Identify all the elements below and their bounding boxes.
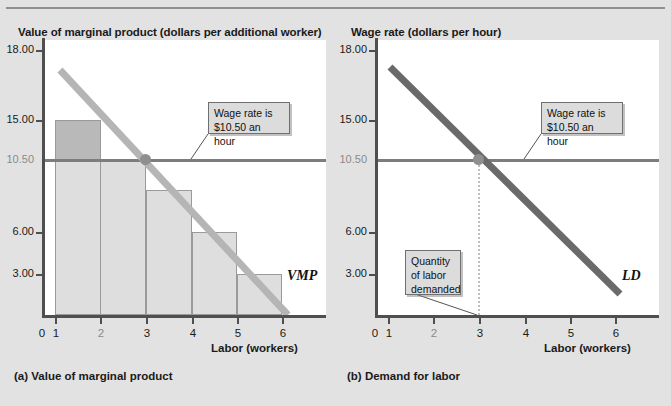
panel-demand-for-labor: Wage rate (dollars per hour) Wage rate i… (337, 12, 667, 394)
top-divider (6, 7, 665, 9)
panel-b-xtick-label-2: 2 (424, 327, 444, 339)
panel-a-xtick-3 (146, 317, 148, 324)
panel-b-ytick-3 (369, 274, 376, 276)
panel-b-xtick-1 (388, 317, 390, 324)
panel-b-wage-rate-line (377, 159, 659, 162)
panel-a-curve-label: VMP (287, 268, 317, 284)
panel-b-y-axis-title: Wage rate (dollars per hour) (351, 26, 501, 38)
panel-a-ytick-18 (36, 50, 43, 52)
panel-a-ytick-label-6: 6.00 (0, 225, 34, 237)
panel-a-xtick-label-3: 3 (137, 327, 157, 339)
panel-a-y-axis-title: Value of marginal product (dollars per a… (18, 26, 322, 38)
panel-a-ytick-label-10-50: 10.50 (0, 153, 34, 165)
panel-a-xtick-label-1: 1 (46, 327, 66, 339)
panel-b-intersection-dot (473, 154, 484, 165)
panel-a-wage-callout-line2: $10.50 an hour (214, 120, 284, 148)
panel-a-ytick-3 (36, 274, 43, 276)
panel-b-ytick-label-3: 3.00 (329, 267, 367, 279)
panel-a-x-axis-title: Labor (workers) (211, 342, 298, 354)
panel-a-xtick-4 (192, 317, 194, 324)
panel-b-ytick-label-6: 6.00 (329, 225, 367, 237)
panel-b-xtick-6 (615, 317, 617, 324)
panel-a-xtick-1 (55, 317, 57, 324)
panel-a-xtick-label-5: 5 (228, 327, 248, 339)
panel-b-quantity-callout: Quantity of labor demanded (405, 250, 461, 295)
panel-b-xtick-label-1: 1 (379, 327, 399, 339)
panel-a-caption: (a) Value of marginal product (14, 370, 172, 382)
panel-a-xtick-2 (100, 317, 102, 324)
panel-b-wage-callout: Wage rate is $10.50 an hour (541, 102, 623, 134)
panel-b-quantity-callout-line1: Quantity (411, 254, 455, 268)
panel-b-quantity-drop-line (478, 162, 480, 315)
panel-a-wage-callout-line1: Wage rate is (214, 106, 284, 120)
panel-b-xtick-label-4: 4 (516, 327, 536, 339)
panel-b-xtick-label-5: 5 (561, 327, 581, 339)
panel-a-ytick-15 (36, 120, 43, 122)
bar-worker-4 (192, 232, 237, 315)
panel-b-ytick-label-15: 15.00 (329, 113, 367, 125)
panel-a-xtick-6 (282, 317, 284, 324)
panel-b-wage-callout-line2: $10.50 an hour (547, 120, 617, 148)
panel-b-xtick-3 (479, 317, 481, 324)
figure-container: Value of marginal product (dollars per a… (0, 0, 671, 406)
panel-a-xtick-label-4: 4 (183, 327, 203, 339)
panel-b-xtick-label-3: 3 (470, 327, 490, 339)
panel-b-ytick-label-10-50: 10.50 (329, 153, 367, 165)
panel-value-of-marginal-product: Value of marginal product (dollars per a… (4, 12, 334, 394)
panel-a-wage-callout: Wage rate is $10.50 an hour (208, 102, 290, 134)
panel-b-xtick-2 (433, 317, 435, 324)
panel-b-ytick-label-18: 18.00 (329, 43, 367, 55)
panel-b-quantity-callout-line3: demanded (411, 282, 455, 296)
panel-a-xtick-label-2: 2 (91, 327, 111, 339)
panel-a-xtick-label-6: 6 (273, 327, 293, 339)
bar-worker-3 (146, 190, 192, 315)
bar-surplus-worker-1 (55, 120, 101, 161)
panel-a-ytick-6 (36, 232, 43, 234)
panel-b-xtick-label-6: 6 (606, 327, 626, 339)
panel-b-xtick-5 (570, 317, 572, 324)
panel-a-ytick-label-3: 3.00 (0, 267, 34, 279)
panel-a-intersection-dot (140, 154, 151, 165)
panel-b-x-axis-title: Labor (workers) (544, 342, 631, 354)
panel-b-ytick-6 (369, 232, 376, 234)
panel-b-xtick-4 (525, 317, 527, 324)
bar-worker-2 (100, 159, 146, 315)
panel-b-wage-callout-line1: Wage rate is (547, 106, 617, 120)
panel-a-wage-rate-line (44, 159, 326, 162)
panel-b-ytick-15 (369, 120, 376, 122)
panel-a-xtick-5 (237, 317, 239, 324)
panel-b-caption: (b) Demand for labor (347, 370, 460, 382)
bar-worker-5 (237, 274, 282, 315)
panel-b-curve-label: LD (622, 268, 641, 284)
panel-a-ytick-label-15: 15.00 (0, 113, 34, 125)
panel-b-quantity-callout-line2: of labor (411, 268, 455, 282)
panel-a-ytick-label-18: 18.00 (0, 43, 34, 55)
panel-b-ytick-18 (369, 50, 376, 52)
